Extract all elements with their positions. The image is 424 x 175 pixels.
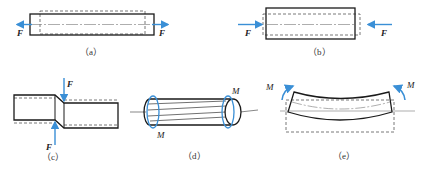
moment-arrow-left bbox=[282, 86, 293, 100]
moment-label-left: M bbox=[265, 82, 274, 92]
force-label-right: F bbox=[380, 28, 387, 38]
torque-arrow-left bbox=[147, 96, 159, 128]
panel-c-shear: F F （c） bbox=[14, 78, 118, 162]
panel-e-bending: M M （e） bbox=[265, 80, 415, 161]
moment-arrow-right bbox=[394, 86, 405, 100]
moment-label-right: M bbox=[406, 80, 415, 90]
caption-e: （e） bbox=[333, 151, 355, 161]
caption-c: （c） bbox=[42, 152, 64, 162]
moment-label-right: M bbox=[231, 86, 240, 96]
force-label-top: F bbox=[66, 79, 73, 89]
panel-d-torsion: M M （d） bbox=[130, 86, 258, 161]
force-label-left: F bbox=[16, 28, 23, 38]
moment-label-left: M bbox=[156, 130, 165, 140]
panel-a-tension: F F （a） bbox=[16, 11, 168, 57]
panel-b-compression: F F （b） bbox=[238, 8, 392, 57]
force-label-right: F bbox=[158, 28, 165, 38]
force-label-bottom: F bbox=[45, 142, 52, 152]
caption-b: （b） bbox=[308, 47, 331, 57]
caption-a: （a） bbox=[80, 47, 102, 57]
caption-d: （d） bbox=[183, 151, 206, 161]
deformation-diagram: F F （a） F F （b） F F （c） bbox=[0, 0, 424, 175]
force-label-left: F bbox=[244, 28, 251, 38]
